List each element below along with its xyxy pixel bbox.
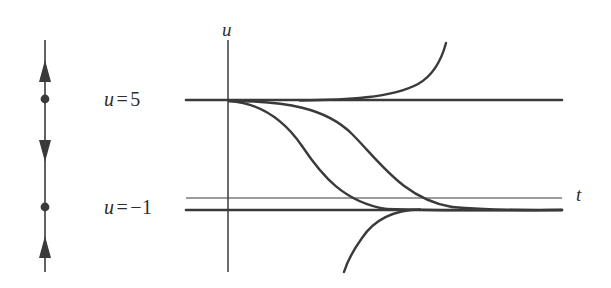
curve-blow-down-below-um1 (344, 210, 420, 273)
phase-arrow-down-middle (39, 140, 51, 162)
phase-arrow-up-top (39, 60, 51, 82)
label-u5-operator: = (115, 88, 131, 110)
label-u5-text: u (104, 88, 115, 110)
curve-blow-up-above-u5 (300, 43, 446, 101)
label-um1-value: −1 (130, 196, 152, 218)
label-equilibrium-u-minus-1: u=−1 (104, 197, 153, 217)
u-axis-label: u (222, 20, 232, 39)
label-u5-value: 5 (130, 88, 141, 110)
label-um1-operator: = (115, 196, 131, 218)
label-um1-text: u (104, 196, 115, 218)
solution-curves (229, 43, 562, 272)
equilibrium-solution-lines (186, 100, 562, 210)
t-axis-label: t (576, 185, 581, 204)
differential-equation-phase-diagram: u=5 u=−1 u t (0, 0, 611, 288)
equilibrium-dot-u5 (41, 95, 50, 104)
phase-line-group (39, 40, 51, 272)
equilibrium-dot-u-minus-1 (41, 203, 50, 212)
phase-arrow-up-bottom (39, 236, 51, 258)
label-equilibrium-u5: u=5 (104, 89, 141, 109)
curve-sigmoid-from-origin (229, 101, 386, 209)
diagram-canvas (0, 0, 611, 288)
